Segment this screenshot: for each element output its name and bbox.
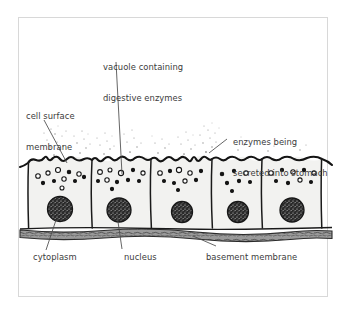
diagram-canvas: vacuole containing digestive enzymes cel…: [0, 0, 346, 313]
label-cell-surface-line1: cell surface: [26, 111, 75, 121]
label-cytoplasm: cytoplasm: [33, 252, 77, 262]
label-basement-membrane: basement membrane: [206, 252, 297, 262]
label-vacuole-line2: digestive enzymes: [103, 93, 183, 103]
label-vacuole-line1: vacuole containing: [103, 62, 183, 72]
label-enzymes-line2: secreted into stomach: [233, 168, 328, 178]
nucleus-cell-1: [48, 197, 73, 222]
nucleus-cell-2: [107, 198, 131, 222]
label-cell-surface-membrane: cell surface membrane: [26, 91, 75, 173]
label-nucleus: nucleus: [124, 252, 157, 262]
label-cell-surface-line2: membrane: [26, 142, 75, 152]
label-enzymes-secreted: enzymes being secreted into stomach: [233, 117, 328, 199]
nucleus-cell-5: [280, 198, 304, 222]
nucleus-cell-3: [172, 202, 193, 223]
leader-enzymes: [209, 139, 227, 153]
label-vacuole: vacuole containing digestive enzymes: [103, 42, 183, 124]
label-enzymes-line1: enzymes being: [233, 137, 328, 147]
basement-membrane: [20, 229, 332, 242]
nucleus-cell-4: [228, 202, 249, 223]
